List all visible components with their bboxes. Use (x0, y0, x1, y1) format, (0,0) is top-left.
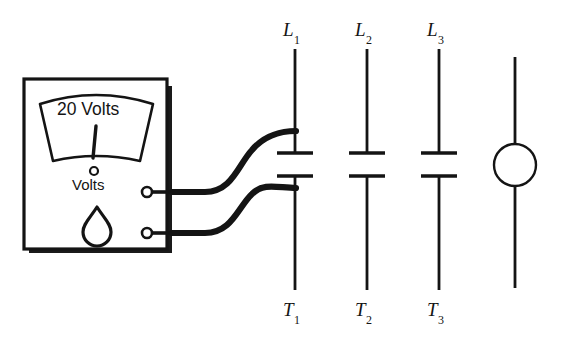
label-L2: L2 (355, 20, 372, 43)
label-L1-letter: L (283, 19, 294, 40)
coil-circle-icon (494, 144, 536, 186)
label-T1-sub: 1 (294, 313, 300, 327)
coil-branch (494, 57, 536, 288)
pole-1 (277, 49, 313, 290)
label-L3-letter: L (427, 19, 438, 40)
label-T1: T1 (283, 300, 300, 323)
label-T2-letter: T (355, 299, 366, 320)
label-T2: T2 (355, 300, 372, 323)
schematic-canvas (0, 0, 561, 339)
label-L3: L3 (427, 20, 444, 43)
label-T3-letter: T (427, 299, 438, 320)
pivot-dot-icon (90, 167, 98, 175)
label-L3-sub: 3 (438, 33, 444, 47)
dial-reading: 20 Volts (57, 101, 119, 119)
pole-2 (349, 49, 385, 290)
label-T1-letter: T (283, 299, 294, 320)
schematic-diagram: 20 Volts Volts L1 L2 L3 T1 T2 T3 (0, 0, 561, 339)
unit-label: Volts (72, 177, 105, 192)
upper-test-lead (172, 131, 296, 192)
label-T3-sub: 3 (438, 313, 444, 327)
label-T2-sub: 2 (366, 313, 372, 327)
pole-3 (421, 49, 457, 290)
label-L2-letter: L (355, 19, 366, 40)
label-L2-sub: 2 (366, 33, 372, 47)
label-L1-sub: 1 (294, 33, 300, 47)
label-L1: L1 (283, 20, 300, 43)
label-T3: T3 (427, 300, 444, 323)
